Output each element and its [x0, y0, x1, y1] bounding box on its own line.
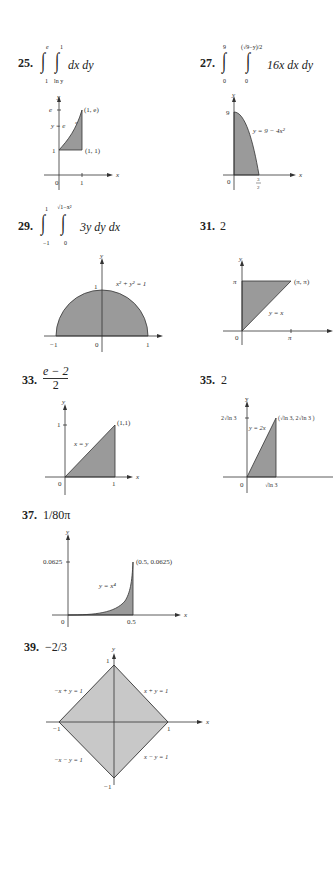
y-tick-1: 1	[94, 283, 98, 291]
problem-27: 27. ∫ 9 0 ∫ (√9−y)/2 0 16x dx dy y x 9 0…	[165, 0, 333, 200]
x-tick-1: 1	[146, 341, 150, 349]
y-axis-label: y	[99, 252, 104, 260]
x-tick-0: 0	[240, 481, 244, 489]
y-tick-e: e	[49, 106, 52, 114]
curve-label: y = 2x	[248, 424, 266, 431]
curve-label: y = x⁴	[98, 582, 116, 590]
svg-text:3: 3	[257, 177, 260, 182]
y-tick-1: 1	[57, 421, 61, 429]
y-axis-label: y	[65, 528, 70, 536]
graph-37: y x 0.0625 0 0.5 (0.5, 0.0625) y = x⁴	[0, 505, 200, 635]
graph-29: y 1 −1 0 1 x² + y² = 1	[0, 200, 165, 360]
x-tick-1: 1	[167, 725, 171, 733]
y-tick-2sqrtln3: 2√ln 3	[221, 415, 236, 421]
edge-label-nw: −x + y = 1	[54, 687, 83, 694]
problem-25: 25. ∫ e 1 ∫ 1 ln y dx dy y x e 1 0 1 (1,…	[0, 0, 165, 200]
x-axis-label: x	[205, 718, 210, 726]
graph-27: y x 9 0 3 2 y = 9 − 4x²	[165, 0, 333, 200]
problem-39: 39. −2/3 y x 1 −1 −1 1 −x + y = 1 x + y …	[0, 635, 260, 835]
graph-25: y x e 1 0 1 (1, e) (1, 1) y = e x	[0, 0, 165, 200]
svg-text:2: 2	[257, 185, 260, 190]
x-tick-pi: π	[288, 334, 292, 342]
x-tick-minus1: −1	[53, 725, 61, 733]
x-tick-0.5: 0.5	[127, 618, 136, 626]
x-tick-0: 0	[235, 334, 239, 342]
y-axis-label: y	[111, 645, 116, 653]
point-label: (√ln 3, 2√ln 3 )	[278, 415, 314, 422]
y-tick-0.0625: 0.0625	[43, 558, 63, 566]
x-tick-0: 0	[227, 178, 231, 186]
x-axis-label: x	[135, 473, 140, 481]
y-axis-label: y	[231, 91, 236, 99]
curve-label: y = 9 − 4x²	[252, 127, 286, 135]
graph-35: y 2√ln 3 0 √ln 3 (√ln 3, 2√ln 3 ) y = 2x	[165, 360, 333, 505]
point-label: (0.5, 0.0625)	[136, 558, 173, 566]
y-tick-pi: π	[233, 278, 237, 286]
x-axis-label: x	[115, 171, 120, 179]
x-tick-1: 1	[80, 179, 84, 187]
graph-31: y π 0 π (π, π) y = x	[165, 200, 333, 360]
y-tick-1: 1	[106, 657, 110, 665]
y-tick-9: 9	[226, 109, 230, 117]
problem-31: 31. 2 y π 0 π (π, π) y = x	[165, 200, 333, 360]
x-tick-0: 0	[95, 341, 99, 349]
curve-label: x = y	[73, 440, 89, 448]
point-label-11: (1, 1)	[85, 147, 101, 155]
graph-39: y x 1 −1 −1 1 −x + y = 1 x + y = 1 −x − …	[0, 635, 260, 835]
x-tick-0: 0	[61, 618, 65, 626]
x-tick-1: 1	[112, 480, 116, 488]
y-tick-1: 1	[52, 147, 56, 155]
x-tick-sqrtln3: √ln 3	[265, 482, 277, 488]
x-tick-0: 0	[58, 480, 62, 488]
graph-33: y x 1 0 1 (1,1) x = y	[0, 360, 165, 505]
y-tick-minus1: −1	[104, 783, 112, 791]
problem-37: 37. 1/80π y x 0.0625 0 0.5 (0.5, 0.0625)…	[0, 505, 200, 635]
curve-label: y = x	[268, 309, 284, 317]
curve-label-base: y = e	[50, 122, 65, 130]
x-axis-label: x	[298, 171, 303, 179]
point-label-1e: (1, e)	[84, 106, 99, 114]
point-label: (π, π)	[294, 278, 310, 286]
problem-29: 29. ∫ 1 −1 ∫ √1−x² 0 3y dy dx y 1 −1 0 1…	[0, 200, 165, 360]
edge-label-sw: −x − y = 1	[54, 756, 83, 763]
problem-33: 33. e − 2 2 y x 1 0 1 (1,1) x = y	[0, 360, 165, 505]
x-axis-label: x	[183, 611, 188, 619]
curve-label: x² + y² = 1	[115, 280, 146, 288]
edge-label-se: x − y = 1	[143, 753, 168, 760]
x-tick-minus1: −1	[50, 341, 58, 349]
y-axis-label: y	[245, 395, 249, 403]
edge-label-ne: x + y = 1	[143, 687, 168, 694]
problem-35: 35. 2 y 2√ln 3 0 √ln 3 (√ln 3, 2√ln 3 ) …	[165, 360, 333, 505]
x-tick-0: 0	[55, 179, 59, 187]
point-label: (1,1)	[117, 419, 131, 427]
